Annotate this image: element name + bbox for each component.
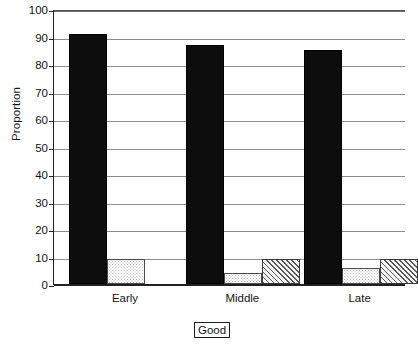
plot-area: [53, 10, 405, 285]
bar-group-container: [54, 11, 405, 284]
x-axis-tick-labels: EarlyMiddleLate: [53, 292, 405, 310]
y-tick-mark: [49, 286, 54, 287]
y-tick-label: 90: [12, 32, 48, 43]
y-axis-tick-labels: 0102030405060708090100: [12, 10, 48, 285]
x-tick-label: Early: [112, 292, 138, 304]
bar: [186, 45, 224, 284]
x-tick-label: Late: [348, 292, 370, 304]
x-tick-label: Middle: [225, 292, 259, 304]
gridline: [54, 285, 405, 286]
y-tick-label: 0: [12, 280, 48, 291]
good-annotation: Good: [194, 320, 230, 338]
y-tick-label: 80: [12, 60, 48, 71]
y-tick-label: 60: [12, 115, 48, 126]
y-tick-label: 40: [12, 170, 48, 181]
y-tick-label: 30: [12, 197, 48, 208]
good-annotation-label: Good: [194, 322, 230, 338]
y-tick-label: 100: [12, 5, 48, 16]
bar: [224, 273, 262, 284]
y-tick-label: 50: [12, 142, 48, 153]
bar: [262, 259, 300, 284]
y-tick-label: 10: [12, 252, 48, 263]
y-tick-label: 20: [12, 225, 48, 236]
bar: [304, 50, 342, 284]
bar: [107, 259, 145, 284]
bar: [342, 268, 380, 285]
bar: [69, 34, 107, 284]
y-tick-label: 70: [12, 87, 48, 98]
bar: [380, 259, 418, 284]
